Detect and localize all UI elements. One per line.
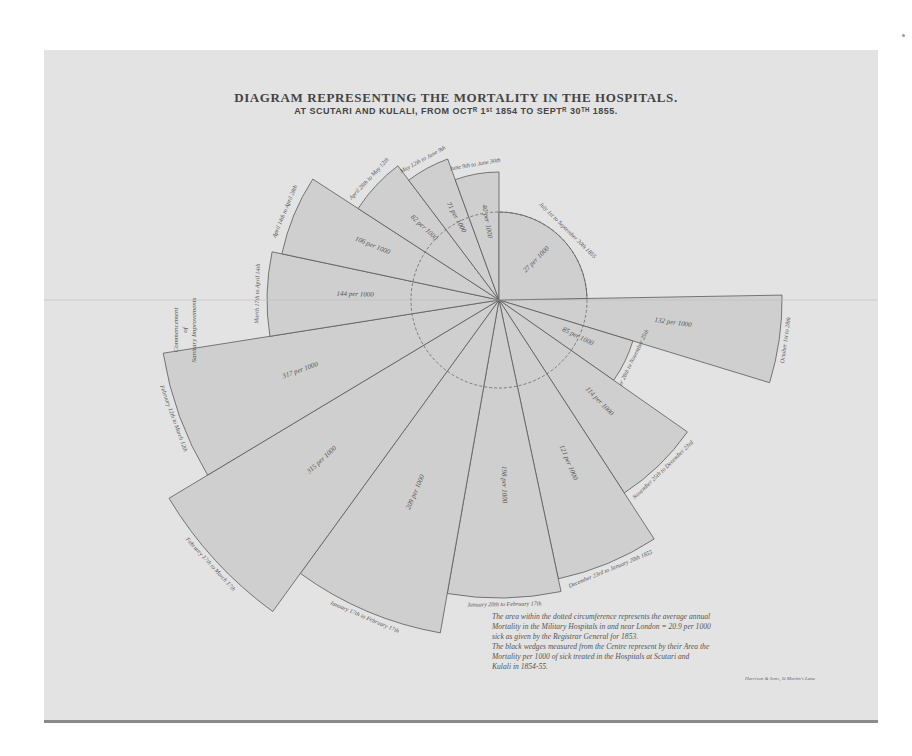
wedge-value-label: 198 per 1000 — [500, 466, 509, 504]
sanitary-improvements-label: of — [181, 326, 189, 333]
note-line: Mortality in the Military Hospitals in a… — [492, 622, 842, 632]
explanatory-note: The area within the dotted circumference… — [492, 612, 842, 672]
wedge-value-label: 144 per 1000 — [336, 290, 374, 299]
note-line: Mortality per 1000 of sick treated in th… — [492, 652, 842, 662]
printer-credit: Harrison & Sons, St Martin's Lane — [745, 676, 815, 681]
wedge-period-label: March 17th to April 14th — [253, 264, 261, 325]
note-line: The area within the dotted circumference… — [492, 612, 842, 622]
sanitary-improvements-label: Sanitary Improvements — [190, 297, 198, 362]
note-line: Kulali in 1854-55. — [492, 662, 842, 672]
wedge-period-label: June 9th to June 30th — [449, 157, 501, 172]
note-line: sick as given by the Registrar General f… — [492, 632, 842, 642]
note-line: The black wedges measured from the Centr… — [492, 642, 842, 652]
wedge-period-label: January 20th to February 17th — [467, 600, 541, 607]
sanitary-improvements-label: Commencement — [172, 307, 180, 353]
